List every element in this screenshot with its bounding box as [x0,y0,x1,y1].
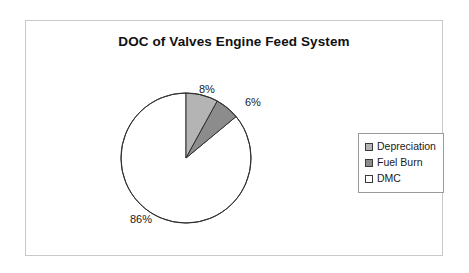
legend-swatch-dmc-icon [365,175,373,183]
legend-item-depreciation[interactable]: Depreciation [365,139,437,154]
legend-item-fuel-burn[interactable]: Fuel Burn [365,155,437,170]
legend-swatch-fuel-burn-icon [365,159,373,167]
pie-label-depreciation: 8% [199,83,215,95]
legend-label-dmc: DMC [377,173,401,184]
legend: Depreciation Fuel Burn DMC [358,133,444,193]
pie-label-fuel-burn: 6% [245,96,261,108]
chart-title: DOC of Valves Engine Feed System [26,34,442,49]
legend-item-dmc[interactable]: DMC [365,171,437,186]
legend-label-depreciation: Depreciation [377,141,436,152]
legend-label-fuel-burn: Fuel Burn [377,157,423,168]
pie-label-dmc: 86% [130,213,152,225]
legend-swatch-depreciation-icon [365,143,373,151]
chart-frame: DOC of Valves Engine Feed System 8% 6% 8… [25,20,443,256]
